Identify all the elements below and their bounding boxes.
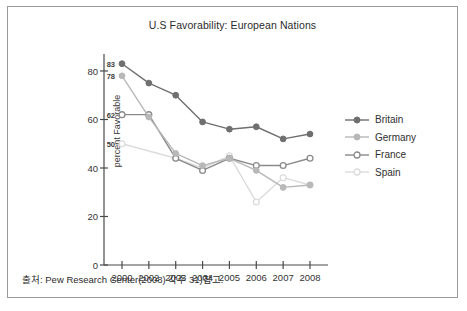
data-point-label: 83 xyxy=(107,59,115,68)
open-circle-icon xyxy=(344,148,370,162)
series-germany xyxy=(119,73,313,190)
filled-circle-icon xyxy=(344,113,370,127)
filled-circle-icon xyxy=(344,130,370,144)
legend-item-label: Britain xyxy=(375,114,403,125)
legend-item-label: Spain xyxy=(375,167,401,178)
line-chart-svg xyxy=(104,54,328,265)
y-axis-tick-label: 40 xyxy=(87,162,98,173)
series-britain xyxy=(119,61,313,142)
chart-figure: U.S Favorability: European Nations perce… xyxy=(7,6,458,298)
x-axis-tick-label: 2008 xyxy=(299,272,320,283)
data-point-label: 62 xyxy=(107,110,115,119)
x-axis-tick-label: 2007 xyxy=(273,272,294,283)
y-axis-tick-label: 60 xyxy=(87,114,98,125)
chart-legend: BritainGermanyFranceSpain xyxy=(344,111,450,181)
plot-area: percent Favorable 0204060802000200220032… xyxy=(104,54,328,265)
y-axis-tick-label: 20 xyxy=(87,211,98,222)
y-axis-tick-label: 0 xyxy=(93,260,98,271)
legend-item-france[interactable]: France xyxy=(344,146,450,164)
legend-item-label: France xyxy=(375,149,406,160)
open-circle-icon xyxy=(344,165,370,179)
legend-item-spain[interactable]: Spain xyxy=(344,164,450,182)
legend-item-label: Germany xyxy=(375,132,416,143)
series-spain xyxy=(119,141,313,205)
data-point-label: 50 xyxy=(107,139,115,148)
y-axis-tick-label: 80 xyxy=(87,65,98,76)
source-caption: 출처: Pew Research Center(2008) 각주 31)참고. xyxy=(22,272,223,286)
legend-item-germany[interactable]: Germany xyxy=(344,129,450,147)
data-point-label: 78 xyxy=(107,71,115,80)
legend-item-britain[interactable]: Britain xyxy=(344,111,450,129)
series-france xyxy=(119,112,313,174)
x-axis-tick-label: 2006 xyxy=(246,272,267,283)
page-title: U.S Favorability: European Nations xyxy=(8,19,457,31)
